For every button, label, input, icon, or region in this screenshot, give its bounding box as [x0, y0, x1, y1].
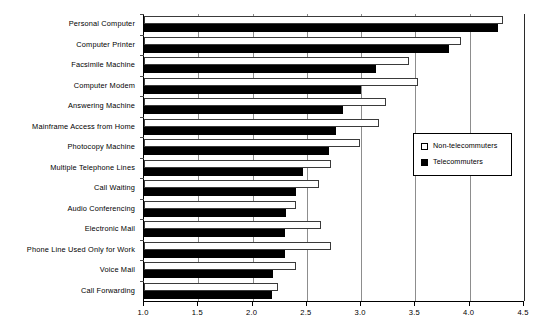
category-label: Computer Modem [74, 81, 135, 90]
category-label: Computer Printer [76, 40, 135, 49]
x-axis-tick-label: 2.0 [246, 308, 257, 317]
category-label: Multiple Telephone Lines [50, 163, 135, 172]
x-axis-tick [197, 301, 198, 306]
category-label: Facsimile Machine [71, 60, 135, 69]
gridline [524, 14, 525, 301]
y-axis-tick [140, 158, 144, 159]
bar-chart: Personal ComputerComputer PrinterFacsimi… [0, 0, 550, 332]
x-axis-tick [414, 301, 415, 306]
bar-telecommuters [144, 106, 343, 114]
category-label: Phone Line Used Only for Work [27, 245, 135, 254]
bar-telecommuters [144, 86, 361, 94]
bar-non-telecommuters [144, 78, 418, 86]
bar-telecommuters [144, 24, 498, 32]
category-label: Voice Mail [100, 265, 135, 274]
x-axis-tick-label: 3.0 [355, 308, 366, 317]
x-axis-tick [360, 301, 361, 306]
y-axis-tick [140, 117, 144, 118]
bar-telecommuters [144, 127, 336, 135]
bar-non-telecommuters [144, 283, 278, 291]
y-axis-tick [140, 178, 144, 179]
bar-telecommuters [144, 209, 286, 217]
category-label: Audio Conferencing [67, 204, 135, 213]
y-axis-tick [140, 199, 144, 200]
y-axis-tick [140, 76, 144, 77]
x-axis-tick-label: 1.5 [192, 308, 203, 317]
category-label: Mainframe Access from Home [32, 122, 135, 131]
category-label: Photocopy Machine [68, 142, 135, 151]
y-axis-tick [140, 240, 144, 241]
x-axis-tick [469, 301, 470, 306]
category-label: Call Forwarding [81, 286, 135, 295]
category-axis: Personal ComputerComputer PrinterFacsimi… [0, 14, 139, 301]
x-axis-tick [143, 301, 144, 306]
x-axis-tick-label: 2.5 [300, 308, 311, 317]
bar-telecommuters [144, 168, 303, 176]
x-axis-tick-label: 4.0 [463, 308, 474, 317]
bar-telecommuters [144, 229, 285, 237]
category-label: Electronic Mail [85, 224, 135, 233]
bar-telecommuters [144, 291, 272, 299]
y-axis-tick [140, 219, 144, 220]
bar-non-telecommuters [144, 242, 331, 250]
chart-legend: Non-telecommuters Telecommuters [413, 133, 512, 176]
category-label: Answering Machine [68, 101, 135, 110]
y-axis-tick [140, 14, 144, 15]
open-square-icon [421, 143, 428, 150]
y-axis-tick [140, 96, 144, 97]
legend-item-telecommuters: Telecommuters [421, 158, 483, 166]
y-axis-tick [140, 281, 144, 282]
x-axis-tick-label: 4.5 [517, 308, 528, 317]
category-label: Personal Computer [69, 19, 135, 28]
y-axis-tick [140, 35, 144, 36]
x-axis-tick-label: 1.0 [137, 308, 148, 317]
x-axis-tick-label: 3.5 [409, 308, 420, 317]
bar-telecommuters [144, 65, 376, 73]
bar-telecommuters [144, 45, 449, 53]
x-axis-tick [252, 301, 253, 306]
bar-telecommuters [144, 147, 329, 155]
bar-non-telecommuters [144, 221, 321, 229]
legend-label: Telecommuters [433, 158, 483, 166]
x-axis-tick [523, 301, 524, 306]
y-axis-tick [140, 55, 144, 56]
bar-non-telecommuters [144, 57, 409, 65]
bar-non-telecommuters [144, 119, 379, 127]
category-label: Call Waiting [94, 183, 135, 192]
bar-non-telecommuters [144, 37, 461, 45]
bar-telecommuters [144, 188, 296, 196]
bar-non-telecommuters [144, 16, 503, 24]
bar-non-telecommuters [144, 98, 386, 106]
filled-square-icon [421, 159, 428, 166]
bar-telecommuters [144, 250, 285, 258]
bar-non-telecommuters [144, 262, 296, 270]
legend-label: Non-telecommuters [433, 142, 497, 150]
bar-non-telecommuters [144, 160, 331, 168]
bar-telecommuters [144, 270, 273, 278]
legend-item-non-telecommuters: Non-telecommuters [421, 142, 497, 150]
bar-non-telecommuters [144, 201, 296, 209]
y-axis-tick [140, 137, 144, 138]
bar-non-telecommuters [144, 180, 319, 188]
x-axis: 1.01.52.02.53.03.54.04.5 [143, 301, 523, 327]
x-axis-tick [306, 301, 307, 306]
y-axis-tick [140, 260, 144, 261]
bar-non-telecommuters [144, 139, 360, 147]
